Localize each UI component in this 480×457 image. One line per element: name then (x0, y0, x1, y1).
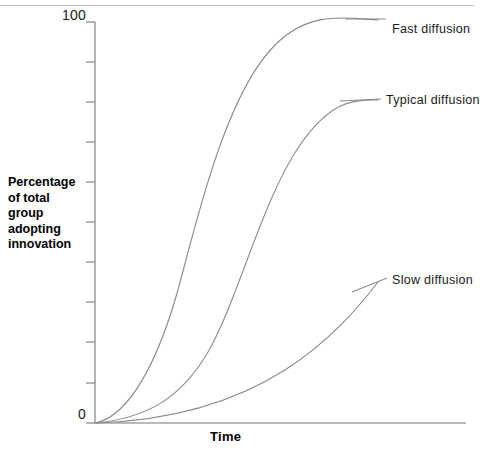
y-axis-title-line-2: of total (8, 191, 92, 207)
y-axis-title-line-4: adopting (8, 222, 92, 238)
y-axis-title-line-5: innovation (8, 237, 92, 253)
y-axis-title-line-1: Percentage (8, 175, 92, 191)
series-label-typical-diffusion: Typical diffusion (386, 93, 480, 107)
curve-fast-diffusion (96, 18, 378, 423)
curve-typical-diffusion (96, 100, 378, 423)
y-axis-tick-label-100: 100 (54, 7, 86, 23)
series-label-slow-diffusion: Slow diffusion (392, 273, 473, 287)
y-axis-title: Percentage of total group adopting innov… (8, 175, 92, 253)
y-axis-tick-label-0: 0 (62, 406, 86, 422)
leader-line-slow (352, 278, 387, 292)
curve-slow-diffusion (96, 282, 378, 423)
y-axis-title-line-3: group (8, 206, 92, 222)
series-label-fast-diffusion: Fast diffusion (392, 22, 470, 36)
x-axis-title: Time (210, 429, 241, 444)
